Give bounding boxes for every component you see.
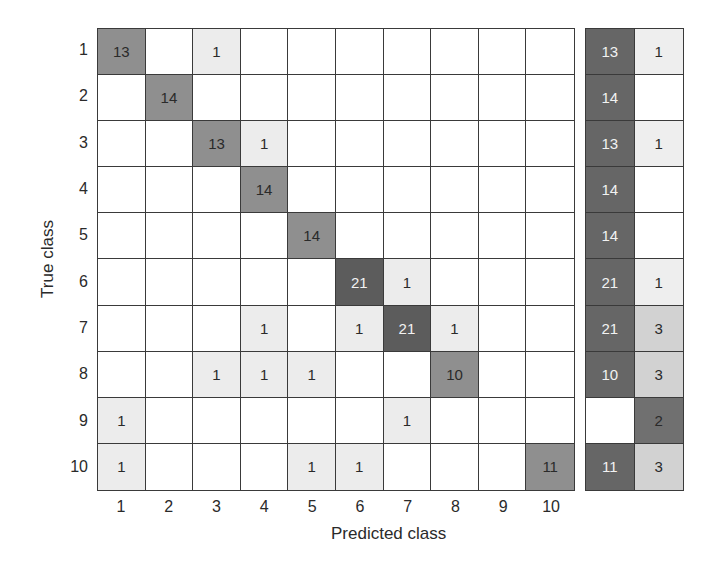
matrix-cell: 1 bbox=[288, 352, 336, 398]
matrix-cell bbox=[98, 121, 146, 167]
x-tick-label: 9 bbox=[479, 498, 527, 516]
matrix-cell bbox=[193, 259, 241, 305]
matrix-cell bbox=[146, 352, 194, 398]
matrix-cell bbox=[241, 213, 289, 259]
y-tick-label: 1 bbox=[58, 41, 88, 59]
summary-incorrect-cell bbox=[635, 213, 684, 259]
matrix-cell: 1 bbox=[336, 444, 384, 490]
matrix-cell bbox=[479, 29, 527, 75]
matrix-cell bbox=[431, 121, 479, 167]
matrix-cell bbox=[384, 444, 432, 490]
matrix-cell bbox=[384, 213, 432, 259]
matrix-cell bbox=[288, 398, 336, 444]
x-tick-label: 1 bbox=[97, 498, 145, 516]
matrix-cell: 1 bbox=[384, 259, 432, 305]
matrix-cell: 14 bbox=[146, 75, 194, 121]
matrix-cell bbox=[98, 352, 146, 398]
matrix-cell bbox=[146, 306, 194, 352]
summary-correct-cell: 21 bbox=[586, 306, 635, 352]
matrix-cell: 14 bbox=[241, 167, 289, 213]
matrix-cell bbox=[146, 259, 194, 305]
summary-correct-cell: 14 bbox=[586, 75, 635, 121]
matrix-cell bbox=[431, 213, 479, 259]
matrix-cell bbox=[479, 444, 527, 490]
matrix-cell bbox=[288, 259, 336, 305]
summary-incorrect-cell: 1 bbox=[635, 29, 684, 75]
matrix-cell bbox=[288, 29, 336, 75]
matrix-cell bbox=[193, 398, 241, 444]
matrix-cell bbox=[431, 167, 479, 213]
matrix-cell bbox=[384, 352, 432, 398]
matrix-cell bbox=[479, 75, 527, 121]
matrix-cell bbox=[526, 213, 574, 259]
matrix-cell bbox=[479, 167, 527, 213]
matrix-cell bbox=[526, 167, 574, 213]
matrix-cell: 21 bbox=[384, 306, 432, 352]
x-tick-label: 10 bbox=[527, 498, 575, 516]
summary-correct-cell: 10 bbox=[586, 352, 635, 398]
summary-correct-cell: 21 bbox=[586, 259, 635, 305]
matrix-cell bbox=[146, 444, 194, 490]
matrix-cell: 1 bbox=[193, 352, 241, 398]
matrix-cell bbox=[336, 75, 384, 121]
matrix-cell bbox=[384, 29, 432, 75]
matrix-cell bbox=[193, 167, 241, 213]
x-axis-title-text: Predicted class bbox=[331, 524, 446, 544]
summary-incorrect-cell: 3 bbox=[635, 352, 684, 398]
matrix-cell bbox=[526, 306, 574, 352]
summary-incorrect-cell: 1 bbox=[635, 259, 684, 305]
matrix-cell bbox=[336, 398, 384, 444]
matrix-cell: 1 bbox=[98, 398, 146, 444]
matrix-cell bbox=[431, 75, 479, 121]
y-axis-title: True class bbox=[38, 220, 58, 298]
summary-correct-cell: 14 bbox=[586, 213, 635, 259]
matrix-cell bbox=[384, 121, 432, 167]
matrix-cell bbox=[241, 398, 289, 444]
summary-correct-cell: 14 bbox=[586, 167, 635, 213]
matrix-cell bbox=[479, 213, 527, 259]
matrix-cell bbox=[288, 167, 336, 213]
summary-correct-cell bbox=[586, 398, 635, 444]
matrix-cell bbox=[384, 75, 432, 121]
x-tick-label: 7 bbox=[384, 498, 432, 516]
matrix-cell: 11 bbox=[526, 444, 574, 490]
matrix-cell bbox=[241, 75, 289, 121]
matrix-cell: 1 bbox=[336, 306, 384, 352]
x-tick-label: 8 bbox=[432, 498, 480, 516]
matrix-cell bbox=[146, 121, 194, 167]
summary-incorrect-cell: 3 bbox=[635, 444, 684, 490]
matrix-cell bbox=[336, 213, 384, 259]
matrix-cell bbox=[288, 306, 336, 352]
summary-incorrect-cell: 1 bbox=[635, 121, 684, 167]
matrix-cell: 1 bbox=[241, 121, 289, 167]
summary-incorrect-cell: 3 bbox=[635, 306, 684, 352]
matrix-cell bbox=[526, 398, 574, 444]
summary-incorrect-cell bbox=[635, 167, 684, 213]
matrix-cell bbox=[146, 213, 194, 259]
matrix-cell bbox=[98, 167, 146, 213]
y-tick-label: 7 bbox=[58, 319, 88, 337]
matrix-cell bbox=[526, 75, 574, 121]
y-tick-label: 6 bbox=[58, 273, 88, 291]
matrix-cell bbox=[288, 121, 336, 167]
matrix-cell bbox=[526, 121, 574, 167]
y-tick-label: 2 bbox=[58, 87, 88, 105]
matrix-cell bbox=[336, 167, 384, 213]
matrix-cell: 14 bbox=[288, 213, 336, 259]
x-tick-label: 4 bbox=[240, 498, 288, 516]
matrix-cell bbox=[241, 259, 289, 305]
x-tick-label: 2 bbox=[145, 498, 193, 516]
matrix-cell: 1 bbox=[241, 306, 289, 352]
y-tick-label: 10 bbox=[58, 458, 88, 476]
matrix-cell bbox=[146, 398, 194, 444]
y-tick-label: 9 bbox=[58, 412, 88, 430]
matrix-cell bbox=[241, 29, 289, 75]
matrix-cell bbox=[146, 167, 194, 213]
matrix-cell: 10 bbox=[431, 352, 479, 398]
summary-correct-cell: 11 bbox=[586, 444, 635, 490]
matrix-cell: 1 bbox=[384, 398, 432, 444]
matrix-cell bbox=[479, 352, 527, 398]
matrix-cell bbox=[479, 398, 527, 444]
matrix-cell: 13 bbox=[193, 121, 241, 167]
matrix-cell bbox=[193, 306, 241, 352]
